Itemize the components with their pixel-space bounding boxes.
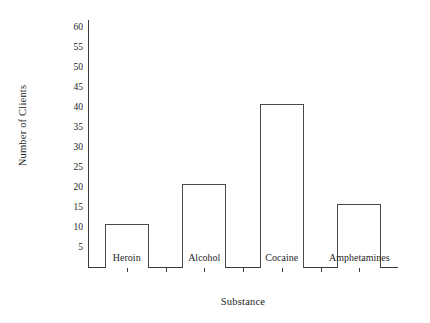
x-tick-mark [359,268,360,272]
x-tick-mark [243,268,244,272]
y-axis-line [88,20,89,268]
x-tick-mark [204,268,205,272]
y-tick-label: 25 [49,163,83,173]
y-tick-label: 50 [49,63,83,73]
x-tick-mark [166,268,167,272]
y-tick-label: 10 [49,223,83,233]
category-label: Amphetamines [329,252,390,263]
x-tick-mark [282,268,283,272]
x-tick-mark [321,268,322,272]
x-tick-mark [127,268,128,272]
y-tick-label: 45 [49,83,83,93]
plot-area: 51015202530354045505560 [88,20,398,268]
category-label: Alcohol [188,252,220,263]
y-axis-label: Number of Clients [17,66,28,186]
y-tick-label: 30 [49,143,83,153]
category-label: Cocaine [265,252,298,263]
bar-chart: Number of Clients 5101520253035404550556… [0,0,430,323]
y-tick-label: 20 [49,183,83,193]
y-tick-label: 55 [49,43,83,53]
x-axis-label: Substance [88,296,398,307]
y-tick-label: 5 [49,243,83,253]
y-tick-label: 40 [49,103,83,113]
y-tick-label: 60 [49,23,83,33]
y-tick-label: 15 [49,203,83,213]
category-label: Heroin [113,252,141,263]
y-tick-label: 35 [49,123,83,133]
bar-cocaine [260,104,304,268]
